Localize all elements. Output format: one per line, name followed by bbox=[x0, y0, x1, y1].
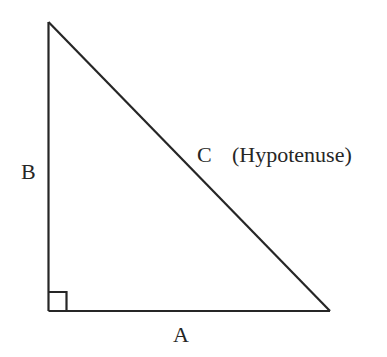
hypotenuse-note: (Hypotenuse) bbox=[232, 142, 352, 167]
side-b-label: B bbox=[21, 159, 36, 184]
right-triangle-diagram: B A C (Hypotenuse) bbox=[0, 0, 387, 357]
side-c-label: C bbox=[197, 142, 212, 167]
side-a-label: A bbox=[173, 322, 189, 347]
right-angle-marker bbox=[49, 292, 67, 311]
